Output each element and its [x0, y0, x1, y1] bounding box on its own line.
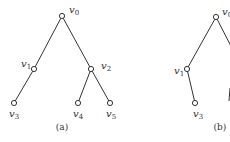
caption-b: (b)	[214, 122, 227, 132]
label-v1: v1	[174, 65, 184, 78]
node-v1	[31, 66, 36, 71]
label-v1: v1	[21, 58, 31, 71]
edge-v1-v3	[187, 69, 195, 103]
node-v4	[75, 100, 80, 105]
edge-v2-v5	[91, 69, 110, 103]
edge-v1-v3	[14, 69, 34, 103]
node-v0	[59, 13, 64, 18]
node-v3	[192, 100, 197, 105]
panel-b: v0 v1 v3 (b)	[174, 6, 230, 132]
tree-figure: v0 v1 v2 v3 v4 v5 (a) v0 v1 v3 (b)	[0, 0, 230, 142]
caption-a: (a)	[56, 122, 68, 132]
panel-a: v0 v1 v2 v3 v4 v5 (a)	[9, 4, 116, 132]
edge-v0-v2	[216, 17, 230, 56]
label-v4: v4	[73, 108, 84, 121]
node-v5	[107, 100, 112, 105]
node-v0	[213, 14, 218, 19]
label-v3: v3	[9, 108, 19, 121]
edge-partial	[229, 88, 230, 101]
edge-v0-v1	[34, 16, 62, 69]
edge-v0-v1	[187, 17, 216, 69]
label-v0: v0	[69, 4, 79, 17]
label-v0: v0	[222, 6, 230, 19]
label-v5: v5	[106, 108, 116, 121]
label-v3: v3	[193, 108, 203, 121]
edge-v0-v2	[62, 16, 91, 69]
label-v2: v2	[101, 60, 111, 73]
node-v3	[11, 100, 16, 105]
node-v1	[184, 66, 189, 71]
node-v2	[88, 66, 93, 71]
edge-v2-v4	[78, 69, 91, 103]
